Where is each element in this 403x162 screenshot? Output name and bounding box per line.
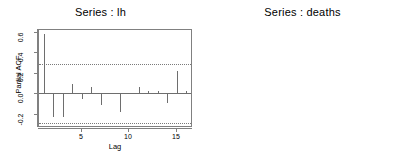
x-tick-mark xyxy=(128,129,129,132)
x-axis-line-lh xyxy=(38,128,192,129)
pacf-spike xyxy=(120,93,121,112)
y-tick-mark xyxy=(34,73,37,74)
plot-area-lh xyxy=(38,29,192,127)
chart-panel-deaths: Series : deaths -0.40.00.20.40.60.8 Part… xyxy=(202,0,403,162)
pacf-spike xyxy=(101,93,102,105)
y-axis-line-lh xyxy=(37,29,38,127)
pacf-spike xyxy=(139,87,140,93)
zero-reference-line xyxy=(39,93,191,94)
pacf-spike xyxy=(63,93,64,117)
pacf-spike xyxy=(167,93,168,103)
x-tick-label: 15 xyxy=(161,133,191,140)
x-tick-mark xyxy=(176,129,177,132)
y-tick-mark xyxy=(34,32,37,33)
pacf-spike xyxy=(177,71,178,94)
pacf-spike xyxy=(53,93,54,117)
pacf-spike xyxy=(186,91,187,94)
pacf-spike xyxy=(82,93,83,99)
x-tick-mark xyxy=(81,129,82,132)
y-tick-mark xyxy=(34,52,37,53)
pacf-spike xyxy=(44,34,45,93)
y-tick-mark xyxy=(34,93,37,94)
pacf-spike xyxy=(129,93,130,94)
x-tick-label: 10 xyxy=(113,133,143,140)
confidence-band-line xyxy=(39,123,191,124)
pacf-spike xyxy=(110,93,111,94)
chart-panel-lh: Series : lh -0.20.00.20.40.6 Partial ACF… xyxy=(0,0,201,162)
y-axis-title-lh: Partial ACF xyxy=(14,45,23,105)
y-tick-mark xyxy=(34,114,37,115)
chart-title-deaths: Series : deaths xyxy=(202,6,403,18)
confidence-band-line xyxy=(39,64,191,65)
pacf-spike xyxy=(91,87,92,93)
pacf-spike xyxy=(72,84,73,93)
x-tick-label: 5 xyxy=(66,133,96,140)
chart-title-lh: Series : lh xyxy=(0,6,201,18)
pacf-figure: Series : lh -0.20.00.20.40.6 Partial ACF… xyxy=(0,0,403,162)
pacf-spike xyxy=(148,91,149,93)
x-axis-title-lh: Lag xyxy=(38,142,192,151)
pacf-spike xyxy=(158,91,159,93)
